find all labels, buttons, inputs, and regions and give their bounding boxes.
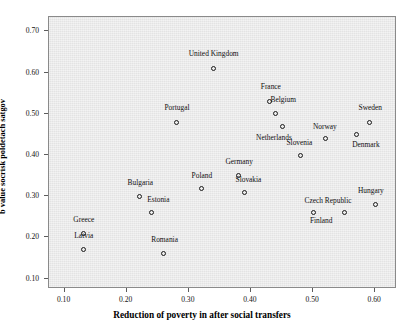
y-axis-tick-mark xyxy=(44,154,48,155)
data-point xyxy=(149,210,154,215)
y-axis-tick-label: 0.30 xyxy=(26,191,39,200)
data-point-label: Norway xyxy=(313,123,337,131)
data-point-label: Germany xyxy=(225,158,253,166)
data-point-label: Denmark xyxy=(352,141,380,149)
scatter-plot-figure: United KingdomFranceBelgiumPortugalSwede… xyxy=(0,0,404,330)
data-point xyxy=(174,120,179,125)
data-point xyxy=(199,186,204,191)
y-axis-tick-label: 0.60 xyxy=(26,67,39,76)
data-point-label: Slovenia xyxy=(286,139,312,147)
x-axis-tick-label: 0.30 xyxy=(181,295,194,304)
data-point xyxy=(323,136,328,141)
y-axis-tick-mark xyxy=(44,72,48,73)
y-axis-title: b value socrisk poldetach satgov xyxy=(0,99,7,214)
data-point-label: Belgium xyxy=(271,96,296,104)
data-point-label: Poland xyxy=(192,172,213,180)
data-point xyxy=(280,124,285,129)
data-point-label: Romania xyxy=(151,236,178,244)
x-axis-tick-mark xyxy=(64,288,65,292)
y-axis-tick-mark xyxy=(44,30,48,31)
x-axis-tick-label: 0.50 xyxy=(305,295,318,304)
data-point xyxy=(81,247,86,252)
data-point-label: Sweden xyxy=(359,104,382,112)
data-point xyxy=(242,190,247,195)
data-point-label: Greece xyxy=(73,216,94,224)
data-point-label: Latvia xyxy=(74,232,93,240)
y-axis-tick-label: 0.10 xyxy=(26,273,39,282)
data-point-label: Czech Republic xyxy=(305,197,352,205)
data-point xyxy=(137,194,142,199)
x-axis-title: Reduction of poverty in after social tra… xyxy=(0,310,404,320)
data-point xyxy=(273,111,278,116)
data-point xyxy=(373,202,378,207)
y-axis-tick-mark xyxy=(44,113,48,114)
x-axis-tick-mark xyxy=(312,288,313,292)
data-point-label: Slovakia xyxy=(236,176,262,184)
data-point-label: France xyxy=(261,83,281,91)
y-axis-tick-mark xyxy=(44,195,48,196)
data-point-label: Bulgaria xyxy=(128,179,153,187)
data-point xyxy=(367,120,372,125)
data-point xyxy=(211,66,216,71)
x-axis-tick-mark xyxy=(374,288,375,292)
y-axis-tick-mark xyxy=(44,278,48,279)
x-axis-tick-mark xyxy=(126,288,127,292)
data-point-label: Hungary xyxy=(358,187,384,195)
data-point xyxy=(161,251,166,256)
x-axis-tick-mark xyxy=(250,288,251,292)
x-axis-tick-label: 0.20 xyxy=(119,295,132,304)
data-point-label: Estonia xyxy=(147,196,169,204)
data-point xyxy=(354,132,359,137)
x-axis-tick-label: 0.60 xyxy=(368,295,381,304)
y-axis-tick-mark xyxy=(44,236,48,237)
x-axis-tick-label: 0.40 xyxy=(243,295,256,304)
plot-panel: United KingdomFranceBelgiumPortugalSwede… xyxy=(48,16,396,288)
y-axis-tick-label: 0.40 xyxy=(26,150,39,159)
data-point-label: Finland xyxy=(310,217,333,225)
data-point xyxy=(298,153,303,158)
y-axis-tick-label: 0.20 xyxy=(26,232,39,241)
y-axis-tick-label: 0.50 xyxy=(26,108,39,117)
x-axis-tick-label: 0.10 xyxy=(57,295,70,304)
data-point-label: Portugal xyxy=(164,104,189,112)
data-point xyxy=(342,210,347,215)
data-point xyxy=(311,210,316,215)
data-point-label: United Kingdom xyxy=(189,50,239,58)
y-axis-tick-label: 0.70 xyxy=(26,26,39,35)
x-axis-tick-mark xyxy=(188,288,189,292)
